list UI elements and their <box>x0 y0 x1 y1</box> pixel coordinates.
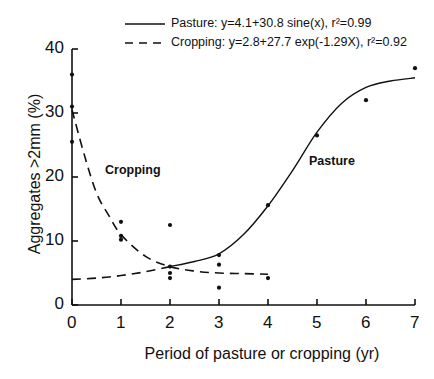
annotation-pasture: Pasture <box>309 154 355 168</box>
data-points <box>70 66 417 290</box>
solid-line-swatch-icon <box>125 19 165 29</box>
data-point <box>70 73 74 77</box>
data-point <box>119 234 123 238</box>
data-point <box>70 140 74 144</box>
axes <box>72 49 415 305</box>
pasture-fit-early-line <box>72 267 170 280</box>
data-point <box>413 66 417 70</box>
data-point <box>168 223 172 227</box>
fit-lines <box>72 78 415 280</box>
legend-item-cropping: Cropping: y=2.8+27.7 exp(-1.29X), r²=0.9… <box>125 33 407 52</box>
y-tick-label: 30 <box>45 102 64 122</box>
x-tick-label: 3 <box>214 313 223 333</box>
data-point <box>217 253 221 257</box>
x-tick-label: 2 <box>165 313 174 333</box>
pasture-fitline <box>170 78 415 267</box>
legend-label-cropping: Cropping: y=2.8+27.7 exp(-1.29X), r²=0.9… <box>171 33 407 52</box>
data-point <box>217 263 221 267</box>
data-point <box>168 271 172 275</box>
cropping-fitline <box>72 110 268 274</box>
y-tick-label: 0 <box>55 294 64 314</box>
data-point <box>119 220 123 224</box>
x-tick-label: 1 <box>116 313 125 333</box>
y-tick-label: 10 <box>45 230 64 250</box>
legend-item-pasture: Pasture: y=4.1+30.8 sine(x), r²=0.99 <box>125 14 407 33</box>
y-axis-label: Aggregates >2mm (%) <box>26 84 44 264</box>
data-point <box>266 276 270 280</box>
x-tick-label: 0 <box>67 313 76 333</box>
data-point <box>70 105 74 109</box>
data-point <box>315 133 319 137</box>
data-point <box>266 203 270 207</box>
y-tick-label: 40 <box>45 38 64 58</box>
data-point <box>119 238 123 242</box>
annotation-cropping: Cropping <box>105 163 161 177</box>
legend: Pasture: y=4.1+30.8 sine(x), r²=0.99 Cro… <box>125 14 407 52</box>
x-tick-label: 6 <box>361 313 370 333</box>
data-point <box>168 265 172 269</box>
x-tick-label: 7 <box>410 313 419 333</box>
data-point <box>217 286 221 290</box>
data-point <box>168 276 172 280</box>
x-tick-label: 4 <box>263 313 272 333</box>
x-axis-label: Period of pasture or cropping (yr) <box>82 345 434 363</box>
data-point <box>364 98 368 102</box>
legend-label-pasture: Pasture: y=4.1+30.8 sine(x), r²=0.99 <box>171 14 371 33</box>
y-tick-label: 20 <box>45 166 64 186</box>
x-tick-label: 5 <box>312 313 321 333</box>
dashed-line-swatch-icon <box>125 38 165 48</box>
